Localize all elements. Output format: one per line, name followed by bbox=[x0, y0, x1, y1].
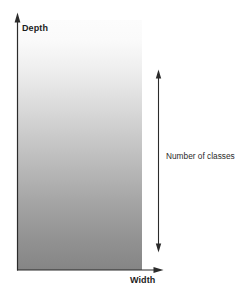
arrow-right-icon bbox=[154, 267, 164, 273]
gradient-rectangle bbox=[18, 20, 143, 270]
x-axis-label: Width bbox=[130, 276, 155, 285]
arrow-down-icon bbox=[156, 244, 161, 253]
arrow-up-icon bbox=[15, 13, 21, 23]
arrow-up-icon bbox=[156, 70, 161, 79]
y-axis-label: Depth bbox=[22, 24, 48, 33]
diagram-canvas: Depth Width Number of classes bbox=[0, 0, 249, 301]
number-of-classes-label: Number of classes bbox=[166, 152, 235, 160]
